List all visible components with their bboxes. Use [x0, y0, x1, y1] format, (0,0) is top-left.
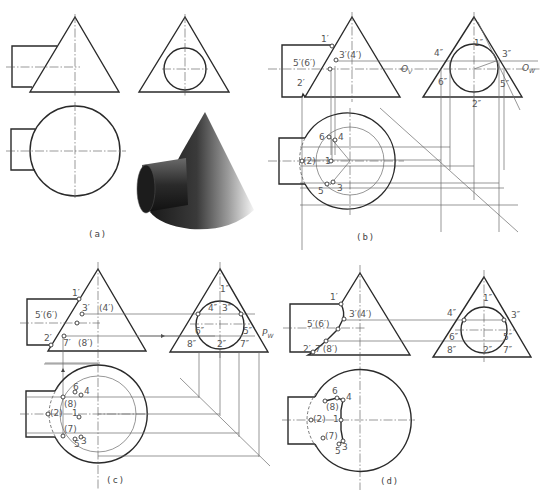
d-label-1pp: 1″	[483, 293, 493, 303]
c-label-7pp: 7″	[240, 339, 250, 349]
b-label-5p6p: 5′(6′)	[293, 58, 316, 68]
b-label-1pp: 1″	[474, 38, 484, 48]
b-front-view	[268, 12, 538, 250]
technical-drawing: (a)	[0, 0, 545, 503]
d-top-label-2: (2)	[313, 414, 326, 424]
b-top-label-2: (2)	[303, 156, 316, 166]
b-label-3p4p: 3′(4′)	[339, 50, 362, 60]
d-top-label-6: 6	[332, 386, 338, 396]
panel-c: 1′ 3′ (4′) 5′(6′) 2′ 7′ (8′) 1″ 4″ 3″ 6″…	[20, 262, 274, 490]
b-top-label-5: 5	[318, 186, 324, 196]
d-top-label-4: 4	[346, 392, 352, 402]
a-side-view	[139, 14, 229, 96]
c-label-7p: 7′	[63, 338, 71, 348]
b-top-label-1: 1	[325, 156, 331, 166]
b-top-label-4: 4	[338, 132, 344, 142]
c-label-8p: (8′)	[78, 338, 93, 348]
b-label-6pp: 6″	[438, 77, 448, 87]
d-label-1p: 1′	[330, 292, 338, 302]
c-label-2p: 2′	[44, 333, 52, 343]
d-label-5pp: 5″	[503, 332, 513, 342]
d-label-3p4p: 3′(4′)	[349, 309, 372, 319]
c-label-3p: 3′	[82, 303, 90, 313]
d-top-label-8: (8)	[326, 402, 339, 412]
c-label-4p: (4′)	[99, 303, 114, 313]
b-label-5pp: 5″	[500, 79, 510, 89]
d-label-5p6p: 5′(6′)	[307, 319, 330, 329]
c-label-4pp: 4″	[208, 303, 218, 313]
b-top-view	[268, 108, 404, 215]
c-label-3pp: 3″	[222, 303, 232, 313]
d-label-2p: 2′	[303, 344, 311, 354]
b-label-2p: 2′	[297, 78, 305, 88]
d-label-6pp: 6″	[449, 332, 459, 342]
c-top-label-6: 6	[73, 382, 79, 392]
b-top-label-6: 6	[319, 132, 325, 142]
a-front-view	[6, 14, 119, 97]
b-label-4pp: 4″	[434, 48, 444, 58]
c-label-2pp: 2″	[217, 339, 227, 349]
d-top-label-1: 1	[333, 414, 339, 424]
panel-d: 1′ 3′(4′) 5′(6′) 2′ 7′(8′) 4″ 1″ 3″ 6″ 5…	[282, 265, 531, 490]
c-label-6pp: 6″	[195, 326, 205, 336]
b-top-label-3: 3	[337, 183, 343, 193]
b-label-ov: OV	[401, 64, 413, 75]
panel-b: 1′ 3′(4′) 5′(6′) 2′ 4″ 1″ 3″ 6″ 5″ 2″ OV…	[268, 12, 540, 250]
b-label-ow: OW	[522, 63, 536, 74]
c-top-label-4: 4	[84, 386, 90, 396]
a-top-view	[6, 102, 126, 198]
d-label-2pp: 2″	[483, 345, 493, 355]
b-label-1p: 1′	[321, 34, 329, 44]
c-label-8pp: 8″	[187, 339, 197, 349]
c-label-5p6p: 5′(6′)	[35, 310, 58, 320]
a-pictorial-cone-cylinder	[137, 112, 254, 229]
d-top-label-3: 3	[342, 442, 348, 452]
d-label-8pp: 8″	[447, 345, 457, 355]
d-top-label-5: 5	[335, 446, 341, 456]
d-label-3pp: 3″	[511, 310, 521, 320]
caption-b: (b)	[356, 232, 375, 242]
caption-c: (c)	[106, 475, 125, 485]
c-top-label-3: 3	[81, 436, 87, 446]
c-label-1pp: 1″	[220, 284, 230, 294]
d-label-7pp: 7″	[503, 345, 513, 355]
c-top-label-5: 5	[74, 439, 80, 449]
panel-a: (a)	[6, 14, 254, 239]
c-top-label-7: (7)	[64, 424, 77, 434]
c-top-label-1: 1	[72, 408, 78, 418]
d-label-4pp: 4″	[447, 308, 457, 318]
c-top-label-2: (2)	[50, 408, 63, 418]
d-label-7p8p: 7′(8′)	[315, 344, 338, 354]
b-label-2pp: 2″	[472, 99, 482, 109]
b-label-3pp: 3″	[502, 49, 512, 59]
c-label-5pp: 5″	[243, 326, 253, 336]
d-top-label-7: (7)	[325, 431, 338, 441]
c-label-pw: PW	[262, 328, 274, 339]
c-side-view	[140, 262, 270, 466]
caption-a: (a)	[88, 229, 107, 239]
c-label-1p: 1′	[72, 288, 80, 298]
d-top-view	[282, 370, 415, 472]
caption-d: (d)	[380, 476, 399, 486]
